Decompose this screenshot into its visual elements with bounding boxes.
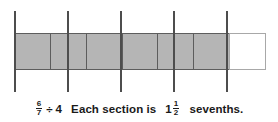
division-line-4 — [173, 11, 175, 92]
result-denominator: 2 — [173, 108, 180, 117]
bar-cell-6 — [193, 33, 230, 70]
bar-cell-1 — [14, 33, 51, 70]
division-line-1 — [14, 11, 16, 92]
bar-cell-7 — [229, 33, 266, 70]
result-fraction: 1 2 — [173, 100, 180, 117]
division-operator: ÷ — [46, 103, 52, 115]
result-numerator: 1 — [173, 100, 180, 108]
divisor: 4 — [56, 103, 63, 115]
caption-sentence-after: sevenths. — [189, 103, 243, 115]
result-whole: 1 — [165, 103, 172, 115]
caption-sentence-before: Each section is — [71, 103, 156, 115]
figure-canvas: 6 7 ÷ 4 Each section is 1 1 2 sevenths. — [0, 0, 278, 122]
dividend-numerator: 6 — [36, 100, 43, 108]
caption: 6 7 ÷ 4 Each section is 1 1 2 sevenths. — [0, 96, 278, 122]
dividend-denominator: 7 — [36, 108, 43, 117]
bar-cell-3 — [86, 33, 123, 70]
dividend-fraction: 6 7 — [36, 100, 43, 117]
result-mixed-number: 1 1 2 — [165, 100, 180, 117]
bar-cell-5 — [157, 33, 194, 70]
division-line-3 — [120, 11, 122, 92]
fraction-bar — [14, 33, 266, 70]
division-line-5 — [226, 11, 228, 92]
division-line-2 — [67, 11, 69, 92]
bar-cell-4 — [122, 33, 159, 70]
